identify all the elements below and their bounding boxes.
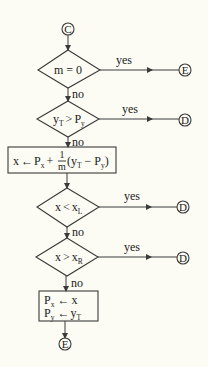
svg-text:D: D [181,114,189,126]
flowchart: C m = 0 yes E no yT>Py yes D no x←Px+ 1 … [0,0,208,367]
svg-text:D: D [179,252,187,264]
decision-x-less-xl: x<xL [37,188,99,227]
svg-text:1: 1 [60,149,65,160]
svg-text:x<xL: x<xL [55,200,83,216]
connector-d: D [177,201,189,213]
process-compute-x: x←Px+ 1 m (yT − Py) [8,147,116,173]
svg-text:m = 0: m = 0 [54,63,82,77]
yes-label: yes [116,53,132,67]
connector-d: D [177,252,189,264]
connector-d: D [179,114,191,126]
no-label: no [71,276,83,290]
svg-text:m: m [58,161,66,172]
end-connector: E [59,338,71,350]
svg-text:E: E [182,64,189,76]
svg-text:D: D [179,201,187,213]
svg-text:Py←yT: Py←yT [44,306,81,322]
svg-text:x←Px+: x←Px+ [13,154,53,170]
svg-text:(yT − Py): (yT − Py) [67,154,109,170]
decision-yt-greater-py: yT>Py [37,101,99,137]
no-label: no [72,225,84,239]
yes-label: yes [122,102,138,116]
svg-text:yT>Py: yT>Py [53,112,85,128]
yes-label: yes [124,189,140,203]
svg-text:x>xR: x>xR [55,250,83,266]
svg-text:E: E [62,338,69,350]
no-label: no [72,87,84,101]
decision-m-equals-zero: m = 0 [38,50,100,88]
decision-x-greater-xr: x>xR [36,238,98,276]
start-connector: C [62,23,74,35]
yes-label: yes [124,240,140,254]
svg-text:C: C [64,23,71,35]
connector-e: E [179,64,191,76]
process-update-p: Px←x Py←yT [39,291,98,322]
